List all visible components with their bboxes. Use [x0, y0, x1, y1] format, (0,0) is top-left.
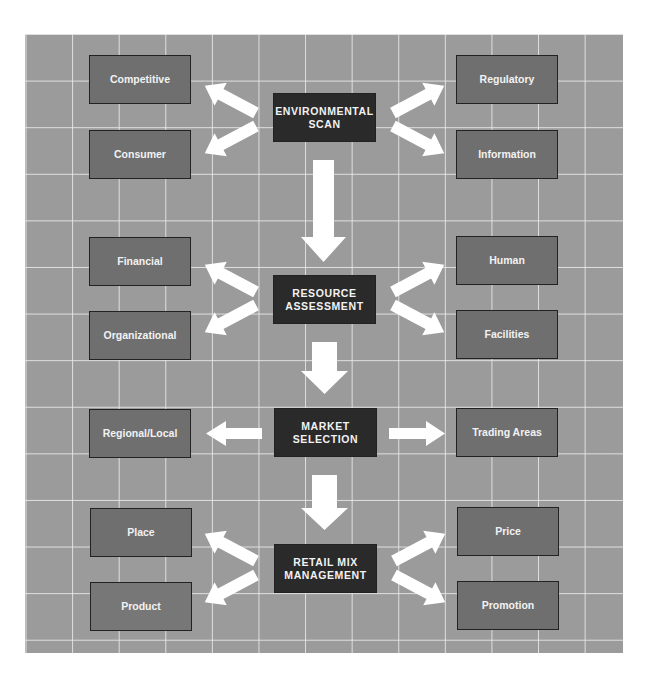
box-label: Price [495, 525, 521, 538]
box-label: Regulatory [480, 73, 535, 86]
box-product: Product [90, 582, 192, 631]
box-label-line2: ASSESSMENT [285, 300, 363, 313]
box-consumer: Consumer [89, 130, 191, 179]
box-financial: Financial [89, 237, 191, 286]
box-label: Human [489, 254, 525, 267]
box-trading-areas: Trading Areas [456, 408, 558, 457]
box-label: Place [127, 526, 154, 539]
box-regulatory: Regulatory [456, 55, 558, 104]
box-place: Place [90, 508, 192, 557]
box-label: Organizational [104, 329, 177, 342]
box-regional-local: Regional/Local [89, 409, 191, 458]
box-label: Facilities [485, 328, 530, 341]
box-label-line1: ENVIRONMENTAL [275, 105, 374, 118]
box-label: Trading Areas [472, 426, 542, 439]
box-environmental-scan: ENVIRONMENTAL SCAN [273, 93, 376, 142]
box-promotion: Promotion [457, 581, 559, 630]
box-label: Consumer [114, 148, 166, 161]
retail-planning-diagram: Competitive Consumer ENVIRONMENTAL SCAN … [0, 0, 654, 681]
box-label: Promotion [482, 599, 535, 612]
box-label-line1: RESOURCE [285, 287, 363, 300]
box-label: Financial [117, 255, 163, 268]
box-competitive: Competitive [89, 55, 191, 104]
box-label: Competitive [110, 73, 170, 86]
box-label-line2: SCAN [275, 118, 374, 131]
box-label: Information [478, 148, 536, 161]
box-human: Human [456, 236, 558, 285]
box-label: Product [121, 600, 161, 613]
box-price: Price [457, 507, 559, 556]
box-label-line1: RETAIL MIX [284, 556, 366, 569]
box-facilities: Facilities [456, 310, 558, 359]
box-information: Information [456, 130, 558, 179]
box-resource-assessment: RESOURCE ASSESSMENT [273, 275, 376, 324]
box-market-selection: MARKET SELECTION [274, 408, 377, 457]
box-label-line1: MARKET [293, 420, 359, 433]
box-label-line2: SELECTION [293, 433, 359, 446]
box-retail-mix-management: RETAIL MIX MANAGEMENT [274, 544, 377, 593]
box-organizational: Organizational [89, 311, 191, 360]
box-label: Regional/Local [103, 427, 178, 440]
box-label-line2: MANAGEMENT [284, 569, 366, 582]
